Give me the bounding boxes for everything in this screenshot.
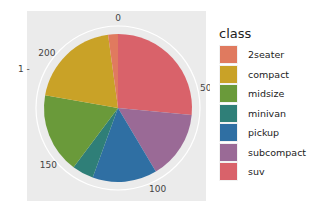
legend: class 2seatercompactmidsizeminivanpickup… bbox=[219, 26, 306, 182]
legend-swatch bbox=[219, 123, 238, 142]
legend-swatch bbox=[219, 45, 238, 64]
legend-item-subcompact: subcompact bbox=[219, 143, 306, 163]
legend-label: pickup bbox=[248, 127, 279, 138]
legend-item-minivan: minivan bbox=[219, 104, 306, 124]
legend-item-suv: suv bbox=[219, 162, 306, 182]
pie-slices bbox=[44, 34, 192, 182]
theta-tick-150: 150 bbox=[40, 160, 57, 170]
legend-swatch bbox=[219, 84, 238, 103]
theta-tick-200: 200 bbox=[38, 48, 55, 58]
legend-label: minivan bbox=[248, 108, 286, 119]
theta-tick-50: 50 bbox=[200, 83, 210, 93]
pie-chart: 050100150200 1 - bbox=[0, 0, 210, 213]
legend-label: 2seater bbox=[248, 49, 284, 60]
legend-label: midsize bbox=[248, 88, 284, 99]
legend-label: suv bbox=[248, 166, 265, 177]
legend-swatch bbox=[219, 104, 238, 123]
legend-swatch bbox=[219, 143, 238, 162]
legend-label: compact bbox=[248, 69, 289, 80]
legend-item-compact: compact bbox=[219, 65, 306, 85]
y-tick-label: 1 - bbox=[18, 64, 30, 74]
theta-tick-0: 0 bbox=[115, 13, 121, 23]
legend-swatch bbox=[219, 162, 238, 181]
legend-swatch bbox=[219, 65, 238, 84]
legend-item-midsize: midsize bbox=[219, 84, 306, 104]
legend-item-2seater: 2seater bbox=[219, 45, 306, 65]
legend-label: subcompact bbox=[248, 147, 306, 158]
legend-item-pickup: pickup bbox=[219, 123, 306, 143]
theta-tick-100: 100 bbox=[149, 184, 166, 194]
legend-title: class bbox=[219, 26, 306, 41]
